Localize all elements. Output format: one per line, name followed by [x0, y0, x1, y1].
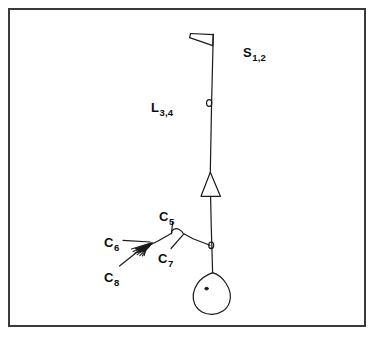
c7-leader-line — [171, 235, 183, 249]
label-c6: C6 — [104, 234, 119, 250]
label-c7-subscript: 7 — [168, 258, 173, 269]
label-c5-base: C — [159, 209, 169, 224]
label-s12-subscript: 1,2 — [252, 52, 266, 63]
c6-leader-line — [123, 240, 150, 242]
label-l34: L3,4 — [151, 99, 173, 115]
label-c8-base: C — [104, 270, 114, 285]
label-c5: C5 — [159, 208, 174, 224]
figure-drawing — [0, 0, 382, 343]
label-c8-subscript: 8 — [114, 277, 119, 288]
branch-right-segment — [184, 234, 210, 245]
flag-shape — [190, 34, 214, 46]
body-outline — [193, 273, 230, 315]
body-interior-dot — [205, 287, 209, 290]
figure-border — [9, 9, 365, 326]
label-l34-base: L — [151, 100, 159, 115]
triangle-shape — [201, 172, 220, 196]
label-c5-subscript: 5 — [169, 216, 174, 227]
label-c8: C8 — [104, 269, 119, 285]
label-c7-base: C — [158, 251, 168, 266]
label-l34-subscript: 3,4 — [160, 107, 174, 118]
stem-lower — [211, 196, 213, 273]
label-c6-base: C — [104, 235, 114, 250]
label-s12-base: S — [243, 45, 252, 60]
label-c7: C7 — [158, 250, 173, 266]
label-s12: S1,2 — [243, 44, 265, 60]
branch-loop — [172, 229, 184, 235]
figure-container: S1,2 L3,4 C5 C6 C7 C8 — [0, 0, 382, 343]
label-c6-subscript: 6 — [114, 242, 119, 253]
